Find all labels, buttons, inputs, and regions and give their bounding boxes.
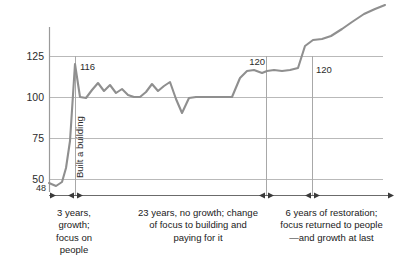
section-dividers	[76, 56, 313, 196]
y-tick-label-48: 48	[36, 183, 46, 193]
x-axis-arrow-icon	[388, 193, 394, 199]
data-label-peak-116: 116	[80, 61, 95, 72]
span-marker-left-end-icon	[68, 193, 74, 199]
span-marker-tail-start-icon	[314, 193, 320, 199]
y-tick-label-100: 100	[26, 91, 44, 103]
span-marker-mid-end-icon	[259, 193, 265, 199]
annotation-built-a-building: Built a building	[74, 116, 85, 178]
y-tick-label-75: 75	[32, 132, 44, 144]
data-label-plateau-120: 120	[249, 56, 265, 67]
span-marker-left-start-icon	[50, 193, 56, 199]
data-line	[49, 5, 385, 186]
span-marker-mid-start-icon	[77, 193, 83, 199]
caption-right-restoration: 6 years of restoration; focus returned t…	[266, 207, 397, 244]
y-tick-label-125: 125	[26, 50, 44, 62]
data-label-restoration-120: 120	[316, 64, 332, 75]
chart-page: 125 100 75 50 48 116 120 120 Built a bui…	[0, 0, 397, 278]
caption-left-growth: 3 years, growth; focus on people	[27, 207, 121, 257]
gridlines	[49, 57, 383, 180]
span-marker-right-start-icon	[268, 193, 274, 199]
caption-middle-no-growth: 23 years, no growth; change of focus to …	[118, 207, 278, 244]
span-marker-right-end-icon	[305, 193, 311, 199]
